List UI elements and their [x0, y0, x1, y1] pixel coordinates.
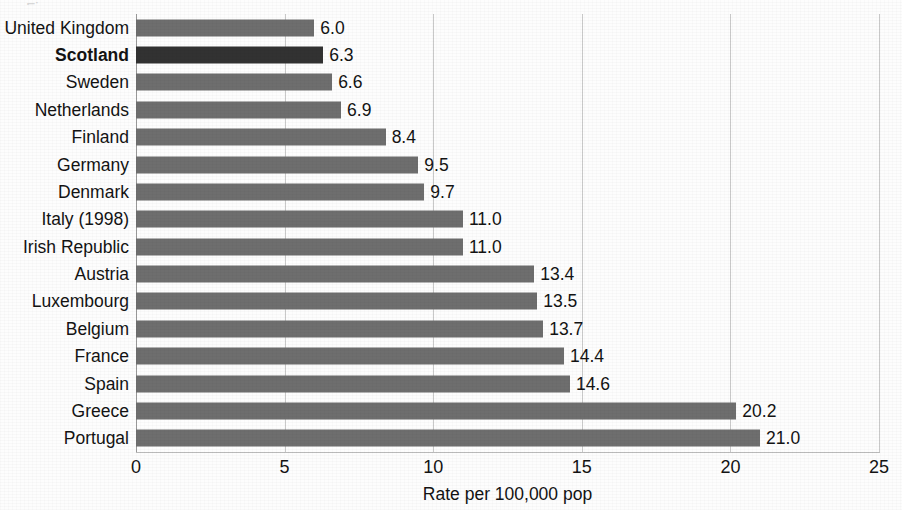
bar-row: Luxembourg13.5 — [136, 288, 879, 315]
bar-value-label: 6.6 — [338, 73, 362, 92]
bar — [136, 375, 570, 392]
category-label: Netherlands — [35, 100, 129, 119]
bar-value-label: 11.0 — [469, 210, 502, 229]
bar-value-label: 9.5 — [424, 155, 448, 174]
bar-row: Belgium13.7 — [136, 315, 879, 342]
plot-area: United Kingdom6.0Scotland6.3Sweden6.6Net… — [136, 14, 879, 452]
x-tick-label: 10 — [423, 456, 443, 478]
bar — [136, 266, 534, 283]
bar-value-label: 8.4 — [392, 128, 416, 147]
bar-row: Finland8.4 — [136, 124, 879, 151]
bar-value-label: 13.7 — [549, 319, 583, 338]
category-label: Portugal — [64, 429, 129, 448]
bar — [136, 101, 341, 118]
category-label: France — [75, 347, 129, 366]
x-tick-label: 15 — [572, 456, 592, 478]
category-label: Austria — [75, 265, 129, 284]
category-label: Spain — [84, 374, 129, 393]
bar — [136, 293, 537, 310]
bar-row: Netherlands6.9 — [136, 96, 879, 123]
bar-row: Greece20.2 — [136, 397, 879, 424]
bar-value-label: 14.4 — [570, 347, 604, 366]
category-label: Greece — [72, 401, 129, 420]
bar — [136, 74, 332, 91]
bar-value-label: 13.5 — [543, 292, 577, 311]
bar — [136, 238, 463, 255]
bar-row: Sweden6.6 — [136, 69, 879, 96]
category-label: Sweden — [66, 73, 129, 92]
bar-value-label: 14.6 — [576, 374, 610, 393]
bar — [136, 156, 418, 173]
bar-row: Scotland6.3 — [136, 41, 879, 68]
category-label: United Kingdom — [4, 18, 129, 37]
bar-row: Italy (1998)11.0 — [136, 206, 879, 233]
bar-value-label: 11.0 — [469, 237, 502, 256]
bar — [136, 348, 564, 365]
bar — [136, 211, 463, 228]
bar-rows: United Kingdom6.0Scotland6.3Sweden6.6Net… — [136, 14, 879, 452]
bar-row: Spain14.6 — [136, 370, 879, 397]
bar-row: United Kingdom6.0 — [136, 14, 879, 41]
x-tick-label: 0 — [131, 456, 141, 478]
bar — [136, 320, 543, 337]
category-label: Irish Republic — [23, 237, 129, 256]
bar-row: Irish Republic11.0 — [136, 233, 879, 260]
category-label: Finland — [72, 128, 129, 147]
bar-row: Portugal21.0 — [136, 425, 879, 452]
bar-row: Denmark9.7 — [136, 178, 879, 205]
bar — [136, 402, 736, 419]
category-label: Belgium — [66, 319, 129, 338]
bar-row: Germany9.5 — [136, 151, 879, 178]
x-tick-label: 5 — [280, 456, 290, 478]
bar — [136, 19, 314, 36]
category-label: Germany — [57, 155, 129, 174]
x-tick-label: 25 — [869, 456, 889, 478]
bar-value-label: 21.0 — [766, 429, 800, 448]
bar — [136, 129, 386, 146]
bar — [136, 47, 323, 64]
category-label: Italy (1998) — [41, 210, 129, 229]
bar-value-label: 13.4 — [540, 265, 574, 284]
category-label: Luxembourg — [32, 292, 129, 311]
bar-row: Austria13.4 — [136, 260, 879, 287]
bar-row: France14.4 — [136, 343, 879, 370]
x-axis-line — [136, 452, 880, 453]
bar-value-label: 6.0 — [320, 18, 344, 37]
bar-chart: Figure United Kingdom6.0Scotland6.3Swede… — [0, 0, 902, 510]
x-axis-ticks: 0510152025 — [136, 456, 879, 482]
x-tick-label: 20 — [720, 456, 740, 478]
gridline-25 — [879, 14, 880, 452]
bar-value-label: 9.7 — [430, 182, 454, 201]
category-label: Denmark — [58, 182, 129, 201]
x-axis-title: Rate per 100,000 pop — [136, 484, 879, 505]
bar-value-label: 6.9 — [347, 100, 371, 119]
bar-value-label: 20.2 — [742, 401, 776, 420]
category-label: Scotland — [55, 46, 129, 65]
bar — [136, 183, 424, 200]
bar-value-label: 6.3 — [329, 46, 353, 65]
clipped-chart-title: Figure — [26, 0, 86, 5]
bar — [136, 430, 760, 447]
